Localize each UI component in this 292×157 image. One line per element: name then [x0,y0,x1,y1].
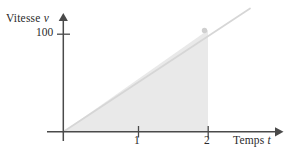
x-axis-title-text: Temps [233,134,268,146]
x-tick-label-1: 1 [134,134,140,146]
y-axis-title-variable: v [44,12,49,24]
x-axis-title-variable: t [268,134,271,146]
y-axis-title: Vitesse v [6,12,49,24]
x-axis-title: Temps t [233,134,271,146]
shaded-area-under-curve [64,30,209,132]
x-axis-arrowhead [275,127,284,136]
x-tick-label-2: 2 [204,134,210,146]
data-point-marker [202,28,207,33]
y-axis-arrowhead [59,13,68,21]
y-tick-label-100: 100 [36,26,53,38]
velocity-time-figure: Vitesse v Temps t 100 1 2 [0,0,292,157]
y-axis-title-text: Vitesse [6,12,44,24]
